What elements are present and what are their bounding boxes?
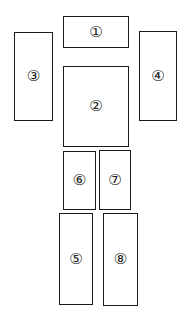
box-4: ④: [139, 31, 177, 121]
box-1-label: ①: [89, 25, 102, 40]
box-6-label: ⑥: [73, 173, 86, 188]
box-4-label: ④: [151, 69, 164, 84]
box-8-label: ⑧: [114, 252, 127, 267]
box-1: ①: [63, 16, 129, 48]
box-2: ②: [63, 66, 129, 147]
box-3-label: ③: [27, 69, 40, 84]
box-7: ⑦: [99, 150, 131, 210]
box-8: ⑧: [103, 213, 138, 306]
box-6: ⑥: [63, 151, 96, 210]
box-5-label: ⑤: [69, 252, 82, 267]
box-7-label: ⑦: [108, 173, 121, 188]
box-3: ③: [14, 32, 53, 121]
box-2-label: ②: [89, 99, 102, 114]
box-5: ⑤: [59, 213, 93, 305]
